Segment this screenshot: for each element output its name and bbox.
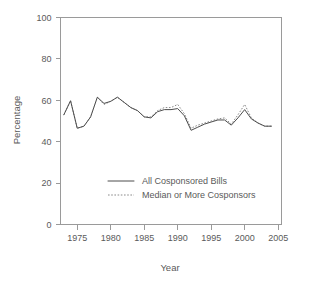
line-chart: 1975198019851990199520002005 02040608010… [0,0,309,289]
x-tick-label: 1975 [67,233,87,243]
legend-label: Median or More Cosponsors [142,190,256,200]
x-tick-label: 1990 [168,233,188,243]
y-axis-tick-labels: 020406080100 [36,13,51,230]
data-series [64,97,272,130]
chart-legend: All Cosponsored BillsMedian or More Cosp… [108,176,256,200]
legend-label: All Cosponsored Bills [142,176,228,186]
y-tick-label: 80 [41,54,51,64]
y-axis-ticks [56,18,61,225]
x-axis-tick-labels: 1975198019851990199520002005 [67,233,288,243]
x-tick-label: 1985 [134,233,154,243]
chart-figure: 1975198019851990199520002005 02040608010… [0,0,309,289]
x-axis-title: Year [160,262,179,273]
x-axis-ticks [77,225,278,230]
y-tick-label: 100 [36,13,51,23]
series-line-dotted [64,97,272,128]
series-line-solid [64,97,272,130]
y-tick-label: 20 [41,178,51,188]
y-tick-label: 60 [41,96,51,106]
x-tick-label: 2005 [268,233,288,243]
x-tick-label: 1995 [201,233,221,243]
y-axis-title: Percentage [11,96,22,145]
x-tick-label: 1980 [101,233,121,243]
x-tick-label: 2000 [235,233,255,243]
y-tick-label: 0 [46,220,51,230]
y-tick-label: 40 [41,137,51,147]
